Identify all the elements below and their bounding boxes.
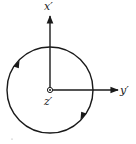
z-axis-out-of-page-icon bbox=[47, 87, 52, 92]
y-axis-label: y′ bbox=[120, 85, 129, 96]
coordinate-diagram bbox=[0, 0, 136, 144]
stray-dot bbox=[11, 138, 12, 139]
x-axis-label: x′ bbox=[44, 1, 53, 12]
z-axis-label: z′ bbox=[44, 96, 52, 107]
